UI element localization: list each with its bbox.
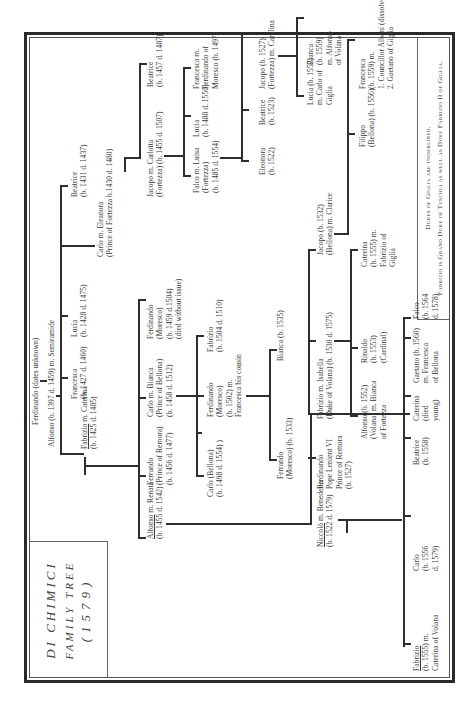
duke-name: Fabrizio <box>412 646 421 671</box>
node-title: (Moresco) <box>215 354 224 417</box>
node-title: Prince of Remora <box>335 435 344 489</box>
connector <box>166 523 312 525</box>
connector <box>334 233 348 235</box>
connector <box>403 437 411 439</box>
node-label: Francesca <box>358 0 367 89</box>
node-title: (Cardinal) <box>379 332 388 363</box>
node-francesca-1427: Francesca (b. 1427 d. 1460) <box>70 346 89 399</box>
connector <box>196 395 204 397</box>
node-dates: (b. 1456 d. 1477) <box>165 426 174 485</box>
node-francesca-1497: Francesca m. Ferdinando of Moresco (b. 1… <box>192 33 220 89</box>
node-dates: (b. 1553) <box>369 332 378 363</box>
node-dates: d. 1579) <box>431 546 440 571</box>
node-note: (died <box>421 395 430 421</box>
duke-name: Niccolò <box>316 523 325 547</box>
node-label: Caterina <box>360 229 369 267</box>
connector <box>124 157 140 159</box>
node-label: Ferdinando (dates unknown) <box>31 338 40 425</box>
node-title: (Prince of Bellona) <box>155 359 164 417</box>
connector <box>347 39 355 41</box>
node-niccolo-1522: Niccolò m. Benedetta (b. 1522 d. 1579) <box>316 481 335 547</box>
node-label: Ferrando <box>276 418 285 479</box>
connector <box>60 453 84 455</box>
node-label: Carlo (Bellona) <box>206 440 215 497</box>
node-dates: (b. 1559) m. <box>367 0 376 89</box>
node-title: Pope Lenient VI <box>325 435 334 489</box>
node-dates: (b. 1523) <box>267 97 276 125</box>
node-dates: (b. 1455 d. 1542) <box>155 482 164 539</box>
node-dates: d. 1578) <box>431 294 440 319</box>
node-dates: (b. 1485 d. 1554) <box>211 140 220 193</box>
connector <box>164 155 184 157</box>
connector <box>350 415 358 417</box>
connector <box>338 519 402 521</box>
node-label: Bianca (b. 1535) <box>276 310 285 361</box>
node-label: Falco <box>412 294 421 319</box>
node-title: (Bellona) m. Clarice <box>325 193 334 255</box>
node-label: Jacopo m. Carlotta <box>146 111 155 197</box>
node-dates: (Bellona) (b. 1556) <box>367 89 376 147</box>
connector <box>308 249 310 415</box>
node-note: m. Francesca <box>421 328 430 383</box>
node-dates: (b. 1555) m. <box>369 229 378 267</box>
node-filippo-1556: Filippo (Bellona) (b. 1556) <box>358 89 377 147</box>
node-note: 2. Gaetano of Giglia <box>386 0 395 89</box>
node-ferdinando-root: Ferdinando (dates unknown) <box>31 338 40 425</box>
node-ferdinando-moresco-1502: Ferdinando (Moresco) (b. 1502) m. France… <box>206 354 244 417</box>
connector <box>241 32 243 162</box>
node-carlo-bianca-1458: Carlo m. Bianca (Prince of Bellona) (b. … <box>146 359 174 417</box>
connector <box>347 39 349 235</box>
node-dates: (b. 1457 d. 1487) <box>155 34 164 87</box>
node-dates: (Prince of Fortezza b.1430 d. 1480) <box>105 149 114 257</box>
connector <box>350 347 358 349</box>
connector <box>241 109 249 111</box>
connector <box>403 643 411 645</box>
node-note: Caterina of Volana <box>431 614 440 671</box>
node-bianca-1559: Bianca (b. 1559) m. Alfonso of Volana <box>306 31 344 65</box>
node-gaetano-1560: Gaetano (b. 1560) m. Francesca of Bellon… <box>412 328 440 383</box>
connector <box>138 299 146 301</box>
title-line-3: (1579) <box>78 578 94 643</box>
node-dates: (b. 1431 d. 1437) <box>79 144 88 197</box>
node-title: (Moresco) <box>155 279 164 339</box>
node-note: Fabrizio of <box>379 229 388 267</box>
connector <box>308 249 316 251</box>
node-lucia-1428: Lucia (b. 1428 d. 1475) <box>70 284 89 337</box>
node-title: (Fortezza) m. Carolina <box>267 20 276 89</box>
node-dates: (Duke of Volana) (b. 1530 d. 1575) <box>325 312 334 419</box>
node-label: Lucia <box>70 284 79 337</box>
node-label: Jacopo (b. 1532) <box>316 193 325 255</box>
node-carlo-eleanora: Carlo m. Eleanora (Prince of Fortezza b.… <box>96 149 115 257</box>
connector <box>296 95 304 97</box>
node-label: Beatrice <box>146 34 155 87</box>
node-label: Alfonso (b. 1552) <box>360 380 369 439</box>
node-lucia-1488: Lucia (b. 1488 d. 1550) <box>192 84 211 137</box>
node-label: Eleonora <box>258 147 267 175</box>
node-alfonso-volana-1552: Alfonso (b. 1552) (Volana) m. Bianca of … <box>360 380 388 439</box>
connector <box>138 299 140 539</box>
node-ferrando-moresco-1533: Ferrando (Moresco) (b. 1533) <box>276 418 295 479</box>
connector <box>183 115 191 117</box>
node-carlo-1556: Carlo (b. 1556 d. 1579) <box>412 546 440 571</box>
connector <box>183 67 191 69</box>
connector <box>60 185 62 247</box>
node-jacopo-carolina-1527: Jacopo (b. 1527) (Fortezza) m. Carolina <box>258 20 277 89</box>
node-ferdinando-1459: Ferdinando (Moresco) (b. 1459 d.1504) (d… <box>146 279 184 339</box>
node-dates: (b. 1555) m. <box>421 614 430 671</box>
connector <box>40 380 47 382</box>
node-note: Francesca his cousin <box>234 354 243 417</box>
node-title: Ferdinando of <box>201 33 210 89</box>
node-label: Ferrando <box>146 426 155 485</box>
connector <box>196 475 204 477</box>
connector <box>241 32 249 34</box>
connector <box>350 249 358 251</box>
node-label: Beatrice <box>412 437 421 465</box>
node-label: Jacopo (b. 1527) <box>258 20 267 89</box>
node-alfonso-1455: Alfonso m. Renata (b. 1455 d. 1542) <box>146 482 165 539</box>
node-dates: (b. 1504 d. 1510) <box>215 299 224 352</box>
node-dates: (b. 1559) <box>315 31 324 65</box>
connector <box>183 67 185 177</box>
node-title: (Prince of Remora) <box>155 426 164 485</box>
node-jacopo-clarice-1532: Jacopo (b. 1532) (Bellona) m. Clarice <box>316 193 335 255</box>
node-dates: (b. 1527) <box>344 435 353 489</box>
